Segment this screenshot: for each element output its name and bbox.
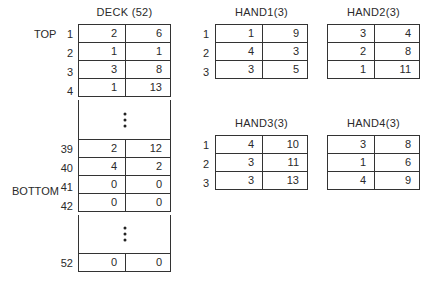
hand1-row-index: 2 — [193, 47, 209, 59]
table-row: 26 — [79, 25, 171, 43]
hand-cell: 3 — [263, 43, 308, 61]
deck-cell: 1 — [79, 43, 126, 61]
hand-cell: 5 — [263, 61, 308, 79]
hand3-table: 410 311 313 — [215, 135, 308, 190]
vertical-ellipsis-icon — [123, 227, 126, 242]
hand-cell: 6 — [375, 154, 420, 172]
table-row: 313 — [216, 172, 308, 190]
hand4-title: HAND4(3) — [327, 117, 420, 129]
table-row: 49 — [328, 172, 420, 190]
deck-cell: 12 — [126, 140, 171, 158]
hand-cell: 3 — [216, 172, 263, 190]
hand-cell: 1 — [328, 61, 375, 79]
deck-last-table: 00 — [78, 253, 171, 272]
deck-ellipsis-gap — [78, 215, 171, 253]
deck-cell: 2 — [126, 158, 171, 176]
deck-cell: 0 — [126, 176, 171, 194]
deck-cell: 8 — [126, 61, 171, 79]
hand-cell: 2 — [328, 43, 375, 61]
deck-cell: 0 — [79, 194, 126, 212]
deck-cell: 1 — [79, 79, 126, 97]
hand2-title: HAND2(3) — [327, 6, 420, 18]
table-row: 43 — [216, 43, 308, 61]
deck-cell: 4 — [79, 158, 126, 176]
hand-cell: 1 — [216, 25, 263, 43]
hand1-table: 19 43 35 — [215, 24, 308, 79]
hand-cell: 3 — [328, 136, 375, 154]
bottom-label: BOTTOM — [12, 185, 59, 197]
hand3-row-index: 2 — [193, 158, 209, 170]
deck-ellipsis-gap — [78, 100, 171, 139]
hand-cell: 8 — [375, 136, 420, 154]
deck-row-index: 52 — [57, 257, 73, 269]
table-row: 19 — [216, 25, 308, 43]
hand-cell: 3 — [216, 61, 263, 79]
deck-cell: 0 — [126, 194, 171, 212]
deck-row-index: 1 — [57, 28, 73, 40]
hand-cell: 11 — [375, 61, 420, 79]
table-row: 410 — [216, 136, 308, 154]
hand-cell: 4 — [375, 25, 420, 43]
hand-cell: 4 — [216, 43, 263, 61]
deck-row-index: 2 — [57, 47, 73, 59]
deck-row-index: 4 — [57, 85, 73, 97]
table-row: 00 — [79, 254, 171, 272]
table-row: 11 — [79, 43, 171, 61]
table-row: 34 — [328, 25, 420, 43]
table-row: 00 — [79, 194, 171, 212]
top-label: TOP — [34, 28, 56, 40]
table-row: 38 — [79, 61, 171, 79]
hand4-table: 38 16 49 — [327, 135, 420, 190]
table-row: 16 — [328, 154, 420, 172]
deck-cell: 0 — [126, 254, 171, 272]
table-row: 113 — [79, 79, 171, 97]
table-row: 38 — [328, 136, 420, 154]
deck-row-index: 41 — [57, 181, 73, 193]
deck-cell: 6 — [126, 25, 171, 43]
deck-cell: 0 — [79, 254, 126, 272]
vertical-ellipsis-icon — [123, 112, 126, 127]
hand1-title: HAND1(3) — [215, 6, 308, 18]
deck-middle-table: 212 42 00 00 — [78, 139, 171, 212]
table-row: 42 — [79, 158, 171, 176]
hand-cell: 4 — [328, 172, 375, 190]
deck-top-table: 26 11 38 113 — [78, 24, 171, 97]
hand-cell: 8 — [375, 43, 420, 61]
table-row: 111 — [328, 61, 420, 79]
deck-cell: 1 — [126, 43, 171, 61]
hand3-title: HAND3(3) — [215, 117, 308, 129]
deck-row-index: 40 — [57, 162, 73, 174]
deck-title: DECK (52) — [78, 6, 171, 18]
deck-cell: 2 — [79, 25, 126, 43]
hand-cell: 9 — [263, 25, 308, 43]
hand-cell: 13 — [263, 172, 308, 190]
hand-cell: 9 — [375, 172, 420, 190]
deck-cell: 0 — [79, 176, 126, 194]
table-row: 00 — [79, 176, 171, 194]
deck-cell: 3 — [79, 61, 126, 79]
deck-row-index: 39 — [57, 143, 73, 155]
hand-cell: 4 — [216, 136, 263, 154]
hand-cell: 1 — [328, 154, 375, 172]
deck-row-index: 42 — [57, 200, 73, 212]
hand2-table: 34 28 111 — [327, 24, 420, 79]
table-row: 212 — [79, 140, 171, 158]
table-row: 28 — [328, 43, 420, 61]
hand-cell: 3 — [328, 25, 375, 43]
hand1-row-index: 1 — [193, 28, 209, 40]
deck-cell: 13 — [126, 79, 171, 97]
hand-cell: 11 — [263, 154, 308, 172]
table-row: 35 — [216, 61, 308, 79]
deck-row-index: 3 — [57, 66, 73, 78]
hand-cell: 10 — [263, 136, 308, 154]
hand-cell: 3 — [216, 154, 263, 172]
hand3-row-index: 3 — [193, 177, 209, 189]
hand3-row-index: 1 — [193, 139, 209, 151]
deck-cell: 2 — [79, 140, 126, 158]
hand1-row-index: 3 — [193, 66, 209, 78]
table-row: 311 — [216, 154, 308, 172]
